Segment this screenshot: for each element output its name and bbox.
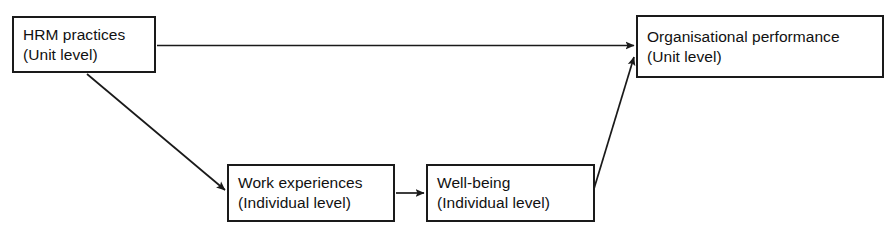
edge-hrm-to-work-experiences [87,74,225,190]
node-work-experiences[interactable]: Work experiences (Individual level) [227,164,395,222]
edge-well-being-to-organisational-performance [593,57,634,192]
node-work-experiences-line-2: (Individual level) [238,193,386,213]
node-hrm-practices-line-2: (Unit level) [23,45,147,65]
diagram-canvas: HRM practices (Unit level) Organisationa… [0,0,890,241]
node-organisational-performance[interactable]: Organisational performance (Unit level) [636,15,884,78]
node-hrm-practices[interactable]: HRM practices (Unit level) [12,16,156,73]
node-hrm-practices-line-1: HRM practices [23,25,147,45]
node-organisational-performance-line-1: Organisational performance [647,27,875,47]
node-well-being-line-2: (Individual level) [437,193,586,213]
node-well-being[interactable]: Well-being (Individual level) [426,164,595,222]
node-organisational-performance-line-2: (Unit level) [647,47,875,67]
node-work-experiences-line-1: Work experiences [238,173,386,193]
node-well-being-line-1: Well-being [437,173,586,193]
